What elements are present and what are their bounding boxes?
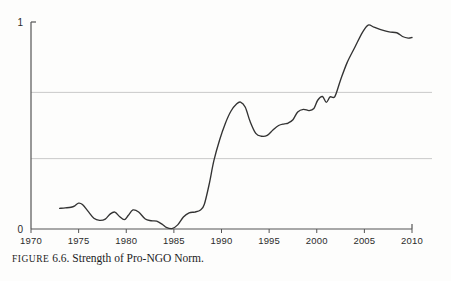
gridlines [31,92,432,158]
chart-plot-area: 197019751980198519901995200020052010 01 [0,0,451,250]
y-axis-ticks: 01 [17,17,23,235]
y-tick-label-0: 0 [17,224,23,235]
line-chart: 197019751980198519901995200020052010 01 [0,0,451,250]
x-tick-label-1990: 1990 [211,235,233,246]
caption-title: Strength of Pro-NGO Norm. [72,252,204,264]
data-series [60,25,412,229]
chart-axes [31,22,412,229]
x-tick-label-1970: 1970 [20,235,42,246]
x-tick-label-2010: 2010 [401,235,423,246]
x-axis-ticks: 197019751980198519901995200020052010 [20,229,423,246]
x-tick-label-1995: 1995 [258,235,280,246]
x-tick-label-2005: 2005 [353,235,375,246]
caption-number: 6.6. [52,252,69,264]
x-tick-label-1980: 1980 [115,235,137,246]
x-tick-label-2000: 2000 [306,235,328,246]
x-tick-label-1975: 1975 [68,235,90,246]
figure-caption: FIGURE 6.6. Strength of Pro-NGO Norm. [12,252,442,264]
series-line-0 [60,25,412,229]
figure-container: 197019751980198519901995200020052010 01 … [0,0,451,281]
caption-label: FIGURE [12,254,49,264]
y-tick-label-1: 1 [17,17,23,28]
x-tick-label-1985: 1985 [163,235,185,246]
